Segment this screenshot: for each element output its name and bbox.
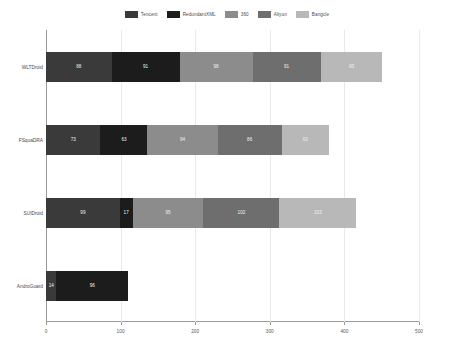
legend-swatch-icon bbox=[167, 11, 180, 18]
x-axis-tick-label: 300 bbox=[266, 329, 274, 334]
bar-segment-value-label: 98 bbox=[214, 64, 219, 69]
legend-label: 360 bbox=[241, 12, 249, 17]
legend-item[interactable]: Aliyun bbox=[258, 11, 287, 18]
x-axis-tick bbox=[270, 322, 271, 325]
bar-segment-value-label: 96 bbox=[90, 283, 95, 288]
legend-item[interactable]: 360 bbox=[225, 11, 249, 18]
bar-segment-value-label: 63 bbox=[303, 137, 308, 142]
legend-label: Tencent bbox=[141, 12, 158, 17]
bar-segment[interactable]: 63 bbox=[282, 125, 329, 155]
category-label: AndroGuard bbox=[17, 283, 43, 288]
bar-segment[interactable]: 96 bbox=[56, 271, 128, 301]
x-axis-tick bbox=[121, 322, 122, 325]
legend-item[interactable]: Bangcle bbox=[296, 11, 329, 18]
legend-label: RedundantXML bbox=[183, 12, 216, 17]
bar-row: 7363948663 bbox=[46, 125, 419, 155]
category-label: FSquaDRA bbox=[19, 137, 43, 142]
gridline bbox=[419, 30, 420, 322]
bar-segment-value-label: 88 bbox=[76, 64, 81, 69]
bar-segment-value-label: 14 bbox=[49, 283, 54, 288]
legend-swatch-icon bbox=[296, 11, 309, 18]
legend-label: Bangcle bbox=[312, 12, 329, 17]
bar-segment-value-label: 83 bbox=[349, 64, 354, 69]
chart-legend: TencentRedundantXML360AliyunBangcle bbox=[0, 11, 454, 18]
legend-swatch-icon bbox=[125, 11, 138, 18]
plot-area: 0100200300400500889198918373639486639917… bbox=[46, 30, 419, 322]
legend-item[interactable]: Tencent bbox=[125, 11, 158, 18]
bar-segment-value-label: 95 bbox=[165, 210, 170, 215]
bar-segment-value-label: 73 bbox=[71, 137, 76, 142]
x-axis-tick bbox=[419, 322, 420, 325]
legend-swatch-icon bbox=[225, 11, 238, 18]
bar-segment[interactable]: 73 bbox=[46, 125, 100, 155]
bar-segment-value-label: 99 bbox=[80, 210, 85, 215]
x-axis-tick-label: 0 bbox=[45, 329, 48, 334]
bar-segment[interactable]: 98 bbox=[180, 52, 253, 82]
bar-segment[interactable]: 88 bbox=[46, 52, 112, 82]
x-axis-tick bbox=[344, 322, 345, 325]
category-label: WLTDroid bbox=[22, 64, 43, 69]
bar-segment-value-label: 91 bbox=[143, 64, 148, 69]
bar-segment-value-label: 103 bbox=[314, 210, 322, 215]
bar-segment-value-label: 94 bbox=[180, 137, 185, 142]
bar-segment-value-label: 102 bbox=[238, 210, 246, 215]
x-axis-line bbox=[46, 321, 419, 322]
category-label: SUIDroid bbox=[24, 210, 43, 215]
bar-row: 991795102103 bbox=[46, 198, 419, 228]
stacked-bar-chart: TencentRedundantXML360AliyunBangcle WLTD… bbox=[0, 0, 454, 353]
bar-segment[interactable]: 91 bbox=[253, 52, 321, 82]
legend-item[interactable]: RedundantXML bbox=[167, 11, 216, 18]
bar-segment[interactable]: 63 bbox=[100, 125, 147, 155]
bar-segment-value-label: 86 bbox=[247, 137, 252, 142]
bar-segment[interactable]: 86 bbox=[218, 125, 282, 155]
bar-segment-value-label: 63 bbox=[121, 137, 126, 142]
bar-segment[interactable]: 91 bbox=[112, 52, 180, 82]
bar-segment[interactable]: 14 bbox=[46, 271, 56, 301]
bar-row: 8891989183 bbox=[46, 52, 419, 82]
y-axis-category-labels: WLTDroidFSquaDRASUIDroidAndroGuard bbox=[0, 30, 43, 322]
x-axis-tick bbox=[46, 322, 47, 325]
x-axis-tick-label: 200 bbox=[191, 329, 199, 334]
bar-segment[interactable]: 99 bbox=[46, 198, 120, 228]
x-axis-tick-label: 500 bbox=[415, 329, 423, 334]
bar-segment-value-label: 91 bbox=[284, 64, 289, 69]
x-axis-tick-label: 100 bbox=[117, 329, 125, 334]
bar-segment[interactable]: 94 bbox=[147, 125, 217, 155]
bar-segment[interactable]: 103 bbox=[279, 198, 356, 228]
bar-segment[interactable]: 17 bbox=[120, 198, 133, 228]
x-axis-tick bbox=[195, 322, 196, 325]
legend-swatch-icon bbox=[258, 11, 271, 18]
bar-segment-value-label: 17 bbox=[124, 210, 129, 215]
bar-segment[interactable]: 83 bbox=[321, 52, 383, 82]
bar-segment[interactable]: 95 bbox=[133, 198, 204, 228]
legend-label: Aliyun bbox=[274, 12, 287, 17]
bar-row: 1496 bbox=[46, 271, 419, 301]
x-axis-tick-label: 400 bbox=[340, 329, 348, 334]
bar-segment[interactable]: 102 bbox=[203, 198, 279, 228]
